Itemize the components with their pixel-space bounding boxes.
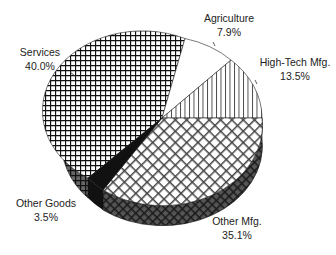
label-agriculture-value: 7.9%	[217, 26, 241, 38]
label-agriculture-name: Agriculture	[204, 12, 254, 24]
label-services-value: 40.0%	[25, 60, 55, 72]
label-othergoods-name: Other Goods	[16, 197, 76, 209]
label-services-name: Services	[20, 46, 60, 58]
label-othermfg-name: Other Mfg.	[212, 215, 262, 227]
label-othermfg-value: 35.1%	[222, 229, 252, 241]
label-hightech-value: 13.5%	[280, 70, 310, 82]
hightech-leader	[255, 80, 257, 84]
label-hightech-name: High-Tech Mfg.	[260, 56, 331, 68]
agriculture-leader	[213, 42, 215, 46]
pie-chart: Services 40.0% Agriculture 7.9% High-Tec…	[0, 0, 336, 255]
label-othergoods-value: 3.5%	[34, 211, 58, 223]
